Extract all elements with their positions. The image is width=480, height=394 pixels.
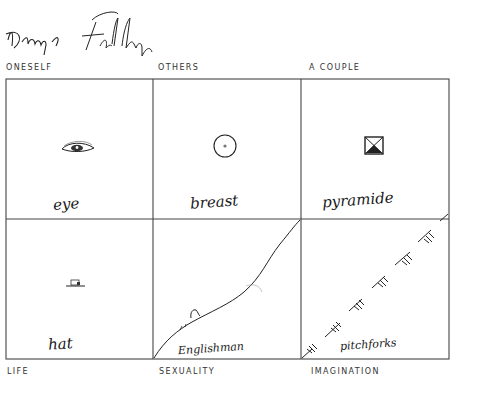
footer-label-sexuality: SEXUALITY	[159, 367, 215, 376]
footer-label-imagination: IMAGINATION	[311, 367, 380, 376]
hat-icon	[66, 280, 85, 286]
breast-icon	[214, 135, 236, 157]
caption-hat: hat	[47, 334, 73, 354]
eye-icon	[62, 141, 94, 151]
caption-eye: eye	[52, 194, 79, 214]
pyramid-icon	[365, 137, 383, 154]
pitchfork-icon	[307, 233, 434, 353]
caption-breast: breast	[189, 191, 238, 212]
grid-lines	[6, 79, 449, 359]
englishman-curve	[154, 220, 300, 358]
pitchforks-line	[302, 214, 448, 358]
footer-label-life: LIFE	[7, 367, 29, 376]
